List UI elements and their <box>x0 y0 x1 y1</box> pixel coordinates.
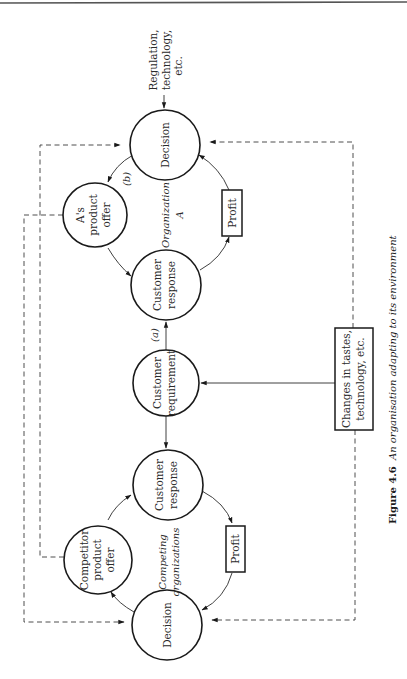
feedback-right-decision-comp <box>212 430 355 620</box>
edge-label-a: (a) <box>149 328 160 342</box>
svg-text:Profit: Profit <box>226 197 238 227</box>
node-profit-comp: Profit <box>226 526 245 572</box>
edge-comp-offer-to-response <box>108 495 131 520</box>
figure-caption-text: An organisation adapting to its environm… <box>387 234 398 461</box>
node-customer-requirement: Customer requirement <box>133 349 199 416</box>
edge-response-a-to-profit <box>200 237 229 270</box>
node-changes-in-tastes: Changes in tastes, technology, etc. <box>335 328 373 430</box>
page-top-rule <box>0 2 407 3</box>
figure-number: Figure 4.6 <box>387 466 398 524</box>
node-decision-a: Decision <box>130 110 200 180</box>
svg-text:Customer: Customer <box>151 258 163 311</box>
svg-text:Changes in tastes,: Changes in tastes, <box>340 330 352 428</box>
svg-text:Decision: Decision <box>161 602 173 648</box>
svg-text:A's: A's <box>74 207 86 224</box>
svg-text:technology, etc.: technology, etc. <box>354 337 366 420</box>
svg-text:response: response <box>165 261 177 309</box>
svg-text:product: product <box>87 193 99 235</box>
group-label-organization-a: Organization A <box>160 182 185 248</box>
node-decision-comp: Decision <box>132 590 202 660</box>
node-customer-response-comp: Customer response <box>133 450 203 520</box>
node-customer-response-a: Customer response <box>131 250 201 320</box>
svg-text:Regulation,: Regulation, <box>147 29 159 90</box>
svg-text:requirement: requirement <box>165 349 177 416</box>
svg-text:Competing: Competing <box>157 534 168 590</box>
node-competitor-product-offer: Competitor product offer <box>64 526 132 594</box>
svg-text:technology,: technology, <box>160 30 172 90</box>
svg-text:Customer: Customer <box>151 356 163 409</box>
node-profit-a: Profit <box>222 190 242 236</box>
svg-text:Organization: Organization <box>160 182 171 248</box>
organisation-adapting-diagram: Decision A's product offer Customer resp… <box>0 0 407 679</box>
svg-text:offer: offer <box>100 202 112 228</box>
edge-offer-to-response-a <box>108 248 131 276</box>
edge-profit-to-decision-a <box>199 155 229 190</box>
edge-decision-comp-to-offer <box>111 592 134 612</box>
svg-text:organizations: organizations <box>170 528 181 597</box>
edge-profit-to-decision-comp <box>202 573 232 610</box>
svg-text:A: A <box>174 211 185 219</box>
figure-caption: Figure 4.6 An organisation adapting to i… <box>387 234 398 524</box>
svg-text:Customer: Customer <box>153 458 165 511</box>
edge-label-b: (b) <box>121 172 132 186</box>
svg-text:Profit: Profit <box>229 533 241 563</box>
edge-response-comp-to-profit <box>202 491 232 523</box>
external-input-regulation: Regulation, technology, etc. <box>147 29 184 90</box>
svg-text:Competitor: Competitor <box>78 529 90 590</box>
group-label-competing-organizations: Competing organizations <box>157 528 181 597</box>
svg-text:product: product <box>91 538 103 580</box>
svg-text:response: response <box>167 461 179 509</box>
node-a-product-offer: A's product offer <box>63 183 127 247</box>
svg-text:Decision: Decision <box>159 122 171 168</box>
svg-text:offer: offer <box>104 547 116 573</box>
svg-text:etc.: etc. <box>172 56 184 76</box>
